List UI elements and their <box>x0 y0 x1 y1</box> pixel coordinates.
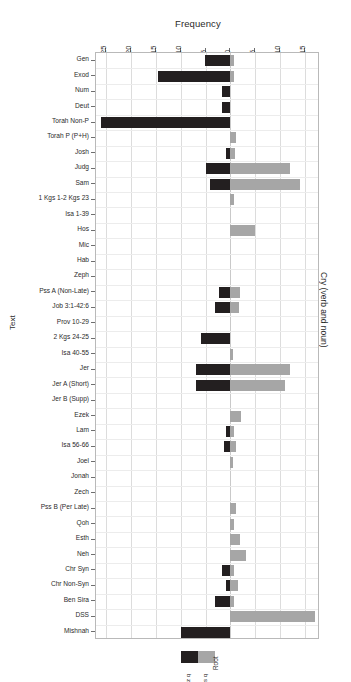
bar <box>230 179 300 190</box>
y-tick-label: Exod <box>74 71 89 78</box>
y-tick-label: Judg <box>75 163 89 170</box>
y-tick-label: Jonah <box>71 472 89 479</box>
y-tick-label: Hos <box>77 225 89 232</box>
bar <box>230 55 234 66</box>
gridline-horizontal <box>96 408 318 409</box>
y-tick-label: Mishnah <box>64 627 89 634</box>
bar <box>230 441 236 452</box>
bar <box>222 102 230 113</box>
y-tick-label: Zeph <box>74 271 89 278</box>
bar <box>230 503 236 514</box>
y-tick-label: Gen <box>77 55 89 62</box>
gridline-horizontal <box>96 316 318 317</box>
bar <box>230 596 234 607</box>
gridline-horizontal <box>96 269 318 270</box>
y-tick-label: Jer B (Supp) <box>52 395 89 402</box>
y-tick-label: Qoh <box>77 519 89 526</box>
gridline-horizontal <box>96 146 318 147</box>
bar <box>196 364 231 375</box>
bar <box>230 364 290 375</box>
gridline-horizontal <box>96 594 318 595</box>
bar <box>230 611 315 622</box>
bar <box>230 457 233 468</box>
gridline-vertical <box>106 53 107 638</box>
gridline-horizontal <box>96 68 318 69</box>
y-tick-label: Chr Syn <box>65 565 89 572</box>
gridline-vertical <box>280 53 281 638</box>
y-tick-label: Prov 10-29 <box>57 318 89 325</box>
bar <box>230 580 238 591</box>
gridline-horizontal <box>96 486 318 487</box>
y-tick-label: DSS <box>75 611 89 618</box>
gridline-horizontal <box>96 439 318 440</box>
gridline-vertical <box>181 53 182 638</box>
bar <box>230 132 236 143</box>
gridline-horizontal <box>96 470 318 471</box>
y-tick-label: Mic <box>79 241 89 248</box>
bar <box>230 550 246 561</box>
gridline-horizontal <box>96 115 318 116</box>
legend-label: s q <box>201 674 208 682</box>
legend-title: Root <box>212 657 219 671</box>
bar <box>210 179 230 190</box>
gridline-horizontal <box>96 130 318 131</box>
gridline-horizontal <box>96 501 318 502</box>
bar <box>230 426 234 437</box>
gridline-horizontal <box>96 532 318 533</box>
plot-area <box>95 52 319 639</box>
y-tick-label: Isa 40-55 <box>62 349 90 356</box>
bar <box>215 302 230 313</box>
gridline-horizontal <box>96 578 318 579</box>
y-tick-label: Lam <box>76 426 89 433</box>
gridline-horizontal <box>96 254 318 255</box>
right-axis-title: Cry (verb and noun) <box>319 272 329 348</box>
legend-label: z q <box>184 674 191 682</box>
bar <box>222 86 230 97</box>
bar <box>230 565 234 576</box>
gridline-horizontal <box>96 238 318 239</box>
bar <box>230 287 240 298</box>
gridline-horizontal <box>96 192 318 193</box>
y-tick-label: Torah Non-P <box>52 117 89 124</box>
bar <box>230 302 239 313</box>
y-tick-label: Torah P (P+H) <box>47 132 89 139</box>
y-tick-label: Esth <box>76 534 89 541</box>
gridline-vertical <box>206 53 207 638</box>
gridline-horizontal <box>96 516 318 517</box>
y-tick-label: Isa 1-39 <box>65 210 89 217</box>
gridline-horizontal <box>96 300 318 301</box>
gridline-horizontal <box>96 223 318 224</box>
y-tick-label: Josh <box>75 148 89 155</box>
gridline-vertical <box>255 53 256 638</box>
bar <box>230 380 285 391</box>
y-tick-label: Jer A (Short) <box>52 380 89 387</box>
y-tick-label: Chr Non-Syn <box>51 580 89 587</box>
y-tick-label: Neh <box>77 550 89 557</box>
bar <box>230 194 233 205</box>
bar <box>222 565 230 576</box>
y-tick-label: Hab <box>77 256 89 263</box>
gridline-horizontal <box>96 455 318 456</box>
y-tick-label: Job 3:1-42:6 <box>52 302 89 309</box>
gridline-horizontal <box>96 347 318 348</box>
gridline-horizontal <box>96 331 318 332</box>
bar <box>230 534 240 545</box>
y-tick-label: Pss A (Non-Late) <box>39 287 89 294</box>
gridline-horizontal <box>96 362 318 363</box>
gridline-horizontal <box>96 424 318 425</box>
bar <box>230 163 290 174</box>
gridline-vertical <box>305 53 306 638</box>
y-tick-label: Zech <box>74 488 89 495</box>
bar <box>215 596 230 607</box>
y-axis-title: Text <box>8 315 17 330</box>
gridline-horizontal <box>96 84 318 85</box>
gridline-horizontal <box>96 563 318 564</box>
bar <box>230 225 255 236</box>
bar <box>181 627 231 638</box>
gridline-vertical <box>156 53 157 638</box>
gridline-horizontal <box>96 285 318 286</box>
bar <box>230 349 233 360</box>
gridline-horizontal <box>96 377 318 378</box>
y-tick-label: Pss B (Per Late) <box>41 503 89 510</box>
